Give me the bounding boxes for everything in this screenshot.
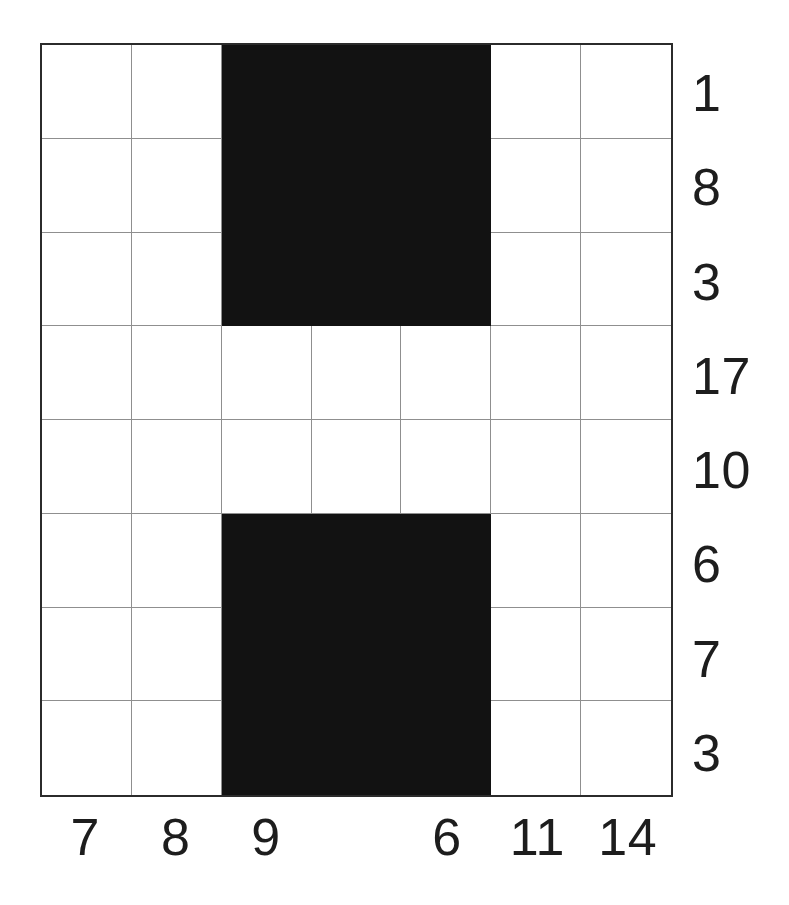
grid-cell[interactable]	[312, 233, 402, 327]
grid-cell[interactable]	[581, 45, 671, 139]
row-label: 6	[692, 514, 782, 608]
grid-cell[interactable]	[491, 701, 581, 795]
grid-cell[interactable]	[581, 326, 671, 420]
grid-cell[interactable]	[132, 45, 222, 139]
grid-cell[interactable]	[491, 608, 581, 702]
grid-cell[interactable]	[132, 233, 222, 327]
grid-cell[interactable]	[581, 233, 671, 327]
row-label: 1	[692, 43, 782, 137]
row-label: 10	[692, 420, 782, 514]
grid-cell[interactable]	[132, 326, 222, 420]
grid-cell[interactable]	[132, 139, 222, 233]
grid-cell[interactable]	[491, 420, 581, 514]
column-label-row: 78961114	[40, 803, 673, 875]
grid-cell[interactable]	[42, 233, 132, 327]
row-label: 3	[692, 703, 782, 797]
grid-cell[interactable]	[312, 420, 402, 514]
grid-cell[interactable]	[312, 45, 402, 139]
row-label-column: 1831710673	[692, 43, 782, 797]
grid-cell[interactable]	[222, 514, 312, 608]
grid-cell[interactable]	[401, 514, 491, 608]
grid-cell[interactable]	[581, 139, 671, 233]
grid-cell[interactable]	[581, 514, 671, 608]
grid-cell[interactable]	[42, 420, 132, 514]
grid-cell[interactable]	[491, 514, 581, 608]
row-label: 8	[692, 137, 782, 231]
grid-cell[interactable]	[491, 326, 581, 420]
grid-cell[interactable]	[132, 701, 222, 795]
grid-cell[interactable]	[581, 608, 671, 702]
grid-cell[interactable]	[491, 45, 581, 139]
grid-cell[interactable]	[581, 420, 671, 514]
grid-cell[interactable]	[42, 45, 132, 139]
grid-cell[interactable]	[401, 233, 491, 327]
grid-cell[interactable]	[132, 420, 222, 514]
grid-cell[interactable]	[222, 608, 312, 702]
grid-cell[interactable]	[42, 701, 132, 795]
grid-cell[interactable]	[132, 514, 222, 608]
grid-cell[interactable]	[312, 514, 402, 608]
column-label	[311, 803, 401, 875]
grid-cell[interactable]	[401, 608, 491, 702]
column-label: 9	[221, 803, 311, 875]
grid-cell[interactable]	[222, 139, 312, 233]
grid-cell[interactable]	[581, 701, 671, 795]
grid-cell[interactable]	[401, 326, 491, 420]
grid-cell[interactable]	[42, 608, 132, 702]
grid-cell[interactable]	[401, 420, 491, 514]
grid-cell[interactable]	[42, 326, 132, 420]
grid-cell[interactable]	[222, 701, 312, 795]
column-label: 11	[492, 803, 582, 875]
grid-cell[interactable]	[312, 608, 402, 702]
grid-cell[interactable]	[401, 45, 491, 139]
grid-cell[interactable]	[312, 326, 402, 420]
grid-cell[interactable]	[42, 514, 132, 608]
grid-cell[interactable]	[42, 139, 132, 233]
column-label: 7	[40, 803, 130, 875]
row-label: 3	[692, 232, 782, 326]
grid-cell[interactable]	[222, 420, 312, 514]
grid-cell[interactable]	[132, 608, 222, 702]
column-label: 8	[130, 803, 220, 875]
grid-figure: 1831710673 78961114	[0, 0, 789, 905]
grid-cell[interactable]	[222, 326, 312, 420]
grid-cell[interactable]	[222, 45, 312, 139]
grid-frame	[40, 43, 673, 797]
grid-cell[interactable]	[312, 139, 402, 233]
grid-cell[interactable]	[222, 233, 312, 327]
grid-cell[interactable]	[491, 233, 581, 327]
grid-cell[interactable]	[401, 139, 491, 233]
grid-cell[interactable]	[491, 139, 581, 233]
grid-cell[interactable]	[312, 701, 402, 795]
row-label: 7	[692, 609, 782, 703]
grid-cell[interactable]	[401, 701, 491, 795]
column-label: 6	[402, 803, 492, 875]
grid-cells	[42, 45, 671, 795]
row-label: 17	[692, 326, 782, 420]
column-label: 14	[583, 803, 673, 875]
